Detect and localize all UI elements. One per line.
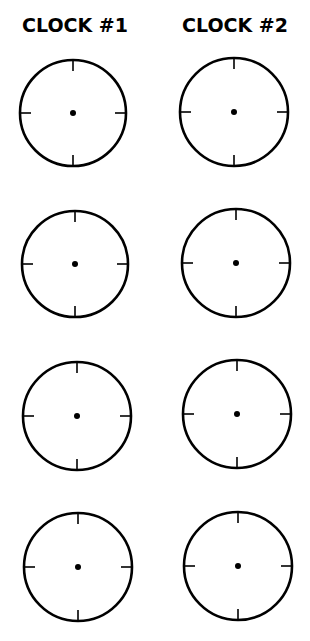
center-dot xyxy=(231,109,237,115)
clock-face xyxy=(184,512,292,620)
center-dot xyxy=(233,260,239,266)
clock-face xyxy=(20,60,126,166)
center-dot xyxy=(235,563,241,569)
clock-face xyxy=(23,362,131,470)
clock-face xyxy=(180,58,288,166)
clock-faces-grid xyxy=(0,0,310,641)
center-dot xyxy=(70,110,76,116)
center-dot xyxy=(74,413,80,419)
center-dot xyxy=(234,411,240,417)
clock-face xyxy=(22,211,128,317)
center-dot xyxy=(72,261,78,267)
clock-face xyxy=(24,513,132,621)
clock-face xyxy=(182,209,290,317)
center-dot xyxy=(75,564,81,570)
clock-face xyxy=(183,360,291,468)
